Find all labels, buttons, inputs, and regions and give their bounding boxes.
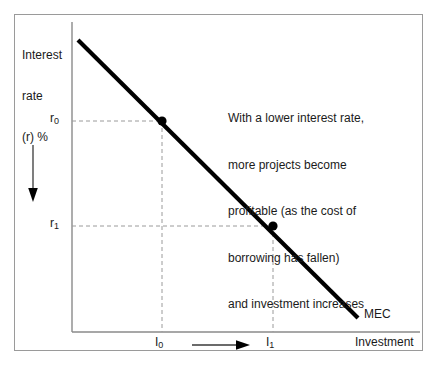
axis-tick-label-i0: I0 bbox=[155, 336, 163, 352]
x-axis-label: Investment bbox=[355, 336, 414, 349]
mec-curve-label: MEC bbox=[364, 308, 391, 321]
i0-subscript: 0 bbox=[158, 340, 163, 350]
axis-tick-label-r0: r0 bbox=[50, 112, 59, 128]
i1-subscript: 1 bbox=[269, 340, 274, 350]
y-axis-label-line1: Interest bbox=[22, 48, 62, 63]
axis-tick-label-r1: r1 bbox=[50, 217, 59, 233]
investment-rises-arrow-head bbox=[236, 340, 250, 350]
annotation-line1: With a lower interest rate, bbox=[228, 111, 364, 127]
annotation-line4: borrowing has fallen) bbox=[228, 251, 364, 267]
r1-subscript: 1 bbox=[54, 221, 59, 231]
r0-subscript: 0 bbox=[54, 116, 59, 126]
annotation-line5: and investment increases bbox=[228, 297, 364, 313]
interest-rate-falls-arrow-head bbox=[28, 188, 38, 202]
y-axis-label-line3: (r) % bbox=[22, 130, 62, 145]
point-r0-i0 bbox=[157, 116, 166, 125]
y-axis-label-line2: rate bbox=[22, 89, 62, 104]
annotation-text: With a lower interest rate, more project… bbox=[228, 80, 364, 328]
y-axis-label: Interest rate (r) % bbox=[22, 22, 62, 158]
axis-tick-label-i1: I1 bbox=[266, 336, 274, 352]
annotation-line2: more projects become bbox=[228, 158, 364, 174]
annotation-line3: profitable (as the cost of bbox=[228, 204, 364, 220]
